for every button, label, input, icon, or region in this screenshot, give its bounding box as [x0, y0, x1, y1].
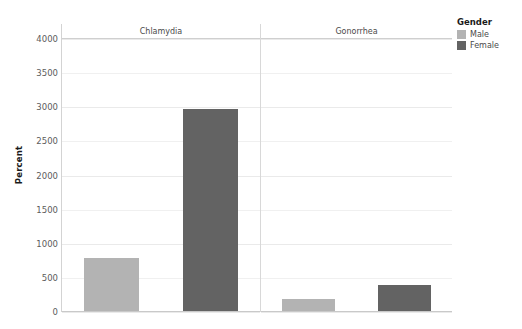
bar-chlamydia-female	[183, 109, 238, 311]
y-tick-2000: 2000	[36, 171, 58, 181]
legend-swatch-male	[457, 30, 466, 39]
y-tick-0: 0	[53, 307, 58, 317]
legend-swatch-female	[457, 41, 466, 50]
legend-item-male[interactable]: Male	[457, 30, 519, 39]
bar-chlamydia-male	[84, 258, 139, 311]
legend-label-female: Female	[470, 41, 499, 50]
panel-title-gonorrhea: Gonorrhea	[335, 27, 377, 36]
bar-gonorrhea-female	[378, 285, 431, 311]
panel-chlamydia: Chlamydia	[62, 24, 260, 312]
legend-item-female[interactable]: Female	[457, 41, 519, 50]
bar-chart: Percent 05001000150020002500300035004000…	[0, 0, 522, 329]
legend: Gender Male Female	[457, 17, 519, 52]
y-tick-1500: 1500	[36, 205, 58, 215]
panel-strip-gonorrhea: Gonorrhea	[261, 24, 452, 39]
y-tick-4000: 4000	[36, 34, 58, 44]
y-tick-3500: 3500	[36, 68, 58, 78]
plot-area-chlamydia	[62, 39, 260, 312]
panel-title-chlamydia: Chlamydia	[140, 27, 183, 36]
bar-group-chlamydia	[62, 39, 260, 311]
y-axis-tick-labels: 05001000150020002500300035004000	[22, 0, 58, 329]
plot-area-gonorrhea	[261, 39, 452, 312]
bar-gonorrhea-male	[282, 299, 335, 311]
gridline-0	[261, 312, 452, 313]
legend-label-male: Male	[470, 30, 489, 39]
gridline-0	[62, 312, 260, 313]
panel-strip-chlamydia: Chlamydia	[62, 24, 260, 39]
panel-gonorrhea: Gonorrhea	[260, 24, 452, 312]
bar-group-gonorrhea	[261, 39, 452, 311]
y-tick-1000: 1000	[36, 239, 58, 249]
y-tick-500: 500	[42, 273, 58, 283]
y-tick-3000: 3000	[36, 102, 58, 112]
legend-title: Gender	[457, 17, 519, 27]
y-tick-2500: 2500	[36, 136, 58, 146]
plot-panels: Chlamydia Gonorrhea	[61, 24, 451, 312]
